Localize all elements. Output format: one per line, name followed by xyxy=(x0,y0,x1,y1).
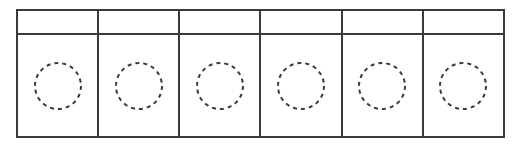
body-cell-5-content xyxy=(343,35,422,136)
dashed-circle-icon xyxy=(34,62,82,110)
body-cell-2[interactable] xyxy=(98,34,179,137)
body-cell-2-content xyxy=(99,35,178,136)
body-cell-6-content xyxy=(424,35,503,136)
worksheet-root xyxy=(0,0,521,145)
dashed-circle-icon xyxy=(439,62,487,110)
header-cell-4[interactable] xyxy=(260,10,341,34)
header-cell-6[interactable] xyxy=(423,10,504,34)
header-row xyxy=(17,10,504,34)
dashed-circle-icon xyxy=(196,62,244,110)
body-cell-6[interactable] xyxy=(423,34,504,137)
body-cell-1-content xyxy=(18,35,97,136)
header-cell-2[interactable] xyxy=(98,10,179,34)
header-cell-3[interactable] xyxy=(179,10,260,34)
body-row xyxy=(17,34,504,137)
body-cell-4[interactable] xyxy=(260,34,341,137)
dashed-circle-icon xyxy=(115,62,163,110)
dashed-circle-icon xyxy=(277,62,325,110)
body-cell-3[interactable] xyxy=(179,34,260,137)
dashed-circle-icon xyxy=(358,62,406,110)
body-cell-5[interactable] xyxy=(342,34,423,137)
header-cell-1[interactable] xyxy=(17,10,98,34)
header-cell-5[interactable] xyxy=(342,10,423,34)
grid-table-body xyxy=(17,10,504,137)
body-cell-3-content xyxy=(180,35,259,136)
body-cell-4-content xyxy=(261,35,340,136)
body-cell-1[interactable] xyxy=(17,34,98,137)
worksheet-grid-table xyxy=(16,9,505,138)
